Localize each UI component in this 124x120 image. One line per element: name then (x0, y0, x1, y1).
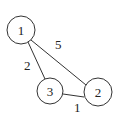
graph-canvas: 5 2 1 1 3 2 (0, 0, 124, 120)
node-label-3: 3 (47, 84, 54, 99)
node-label-1: 1 (18, 23, 25, 38)
node-label-2: 2 (95, 85, 102, 100)
edge-1-3 (28, 42, 45, 79)
edge-3-2 (63, 94, 84, 97)
edge-weight-3-2: 1 (74, 100, 81, 115)
edge-weight-1-3: 2 (24, 58, 31, 73)
node-3: 3 (37, 78, 63, 104)
edge-weight-1-2: 5 (55, 37, 62, 52)
node-2: 2 (84, 78, 112, 106)
node-1: 1 (7, 16, 35, 44)
